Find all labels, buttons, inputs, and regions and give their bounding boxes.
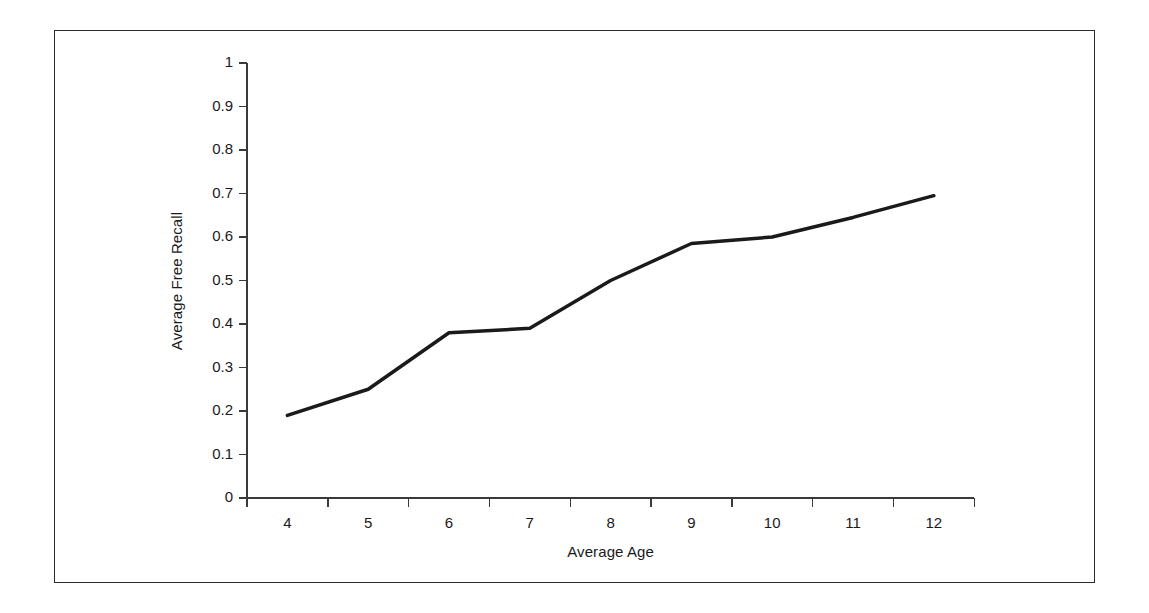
- y-axis-tick-label: 0.3: [173, 358, 233, 375]
- x-axis-tick-label: 6: [409, 514, 490, 531]
- x-axis-title: Average Age: [567, 543, 654, 560]
- y-axis-tick-label: 0: [173, 488, 233, 505]
- chart-axes: [239, 63, 974, 507]
- x-axis-tick-label: 10: [732, 514, 813, 531]
- data-line-series: [287, 196, 933, 416]
- x-axis-tick-label: 8: [570, 514, 651, 531]
- x-axis-tick-label: 7: [489, 514, 570, 531]
- y-axis-tick-label: 0.4: [173, 314, 233, 331]
- x-axis-tick-label: 4: [247, 514, 328, 531]
- x-axis-tick-label: 9: [651, 514, 732, 531]
- y-axis-tick-label: 0.1: [173, 445, 233, 462]
- x-axis-tick-label: 12: [893, 514, 974, 531]
- data-line: [287, 196, 933, 416]
- x-axis-tick-label: 11: [813, 514, 894, 531]
- x-axis-tick-label: 5: [328, 514, 409, 531]
- y-axis-tick-label: 0.6: [173, 227, 233, 244]
- y-axis-tick-label: 0.7: [173, 184, 233, 201]
- y-axis-tick-label: 0.2: [173, 401, 233, 418]
- y-axis-tick-label: 0.5: [173, 271, 233, 288]
- y-axis-tick-label: 0.9: [173, 97, 233, 114]
- y-axis-tick-label: 0.8: [173, 140, 233, 157]
- y-axis-tick-label: 1: [173, 53, 233, 70]
